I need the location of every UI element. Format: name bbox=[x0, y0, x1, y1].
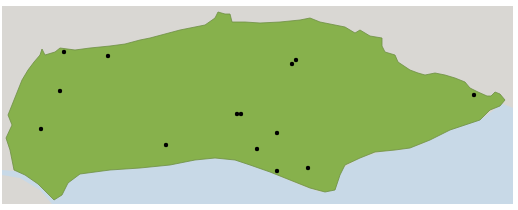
map-point-marker[interactable] bbox=[294, 58, 298, 62]
map-point-marker[interactable] bbox=[39, 127, 43, 131]
map-point-marker[interactable] bbox=[472, 93, 476, 97]
map-point-marker[interactable] bbox=[275, 131, 279, 135]
map-point-marker[interactable] bbox=[235, 112, 239, 116]
map-point-marker[interactable] bbox=[106, 54, 110, 58]
map-frame bbox=[2, 6, 513, 204]
map-point-marker[interactable] bbox=[239, 112, 243, 116]
map-point-marker[interactable] bbox=[62, 50, 66, 54]
map-point-marker[interactable] bbox=[255, 147, 259, 151]
map-point-marker[interactable] bbox=[164, 143, 168, 147]
map-point-marker[interactable] bbox=[275, 169, 279, 173]
map-point-marker[interactable] bbox=[306, 166, 310, 170]
map-point-marker[interactable] bbox=[58, 89, 62, 93]
map-canvas bbox=[2, 6, 513, 204]
map-point-marker[interactable] bbox=[290, 62, 294, 66]
